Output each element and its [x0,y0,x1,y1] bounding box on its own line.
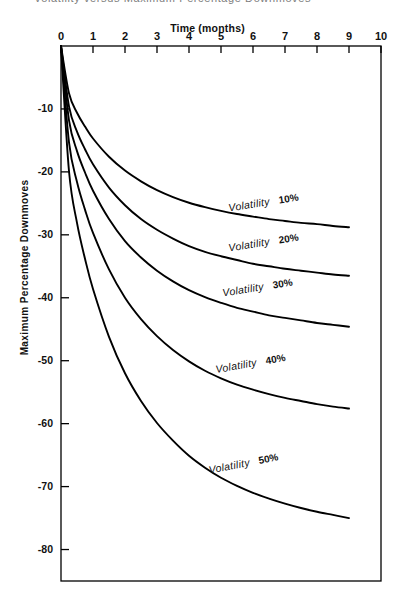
chart-figure: Volatility versus Maximum Percentage Dow… [0,0,403,595]
y-tick-label: -70 [19,480,53,492]
y-tick-label: -20 [19,165,53,177]
x-tick-label: 0 [51,30,71,42]
plot-area [0,0,403,595]
y-tick-label: -30 [19,228,53,240]
x-tick-label: 4 [179,30,199,42]
x-tick-label: 10 [371,30,391,42]
x-tick-label: 7 [275,30,295,42]
x-tick-label: 8 [307,30,327,42]
x-tick-label: 6 [243,30,263,42]
y-tick-label: -60 [19,417,53,429]
x-tick-label: 1 [83,30,103,42]
x-tick-label: 9 [339,30,359,42]
plot-frame [61,46,381,581]
x-tick-label: 3 [147,30,167,42]
y-tick-label: -80 [19,543,53,555]
y-tick-label: -50 [19,354,53,366]
y-tick-label: -10 [19,102,53,114]
x-tick-label: 5 [211,30,231,42]
x-tick-label: 2 [115,30,135,42]
y-tick-label: -40 [19,291,53,303]
